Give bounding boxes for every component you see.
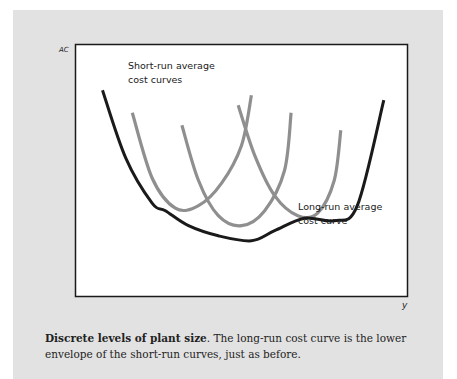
figure-caption: Discrete levels of plant size. The long-… — [45, 330, 425, 362]
x-axis-label: y — [401, 300, 408, 310]
caption-title: Discrete levels of plant size — [45, 332, 207, 344]
y-axis-label: AC — [58, 46, 69, 54]
long-run-label-line1: Long-run average — [298, 201, 382, 212]
plot-frame — [76, 45, 408, 297]
long-run-label-line2: cost curve — [298, 215, 348, 226]
short-run-label-line1: Short-run average — [128, 60, 215, 71]
chart: AC y Short-run average cost curves Long-… — [0, 0, 457, 379]
short-run-label-line2: cost curves — [128, 74, 182, 85]
